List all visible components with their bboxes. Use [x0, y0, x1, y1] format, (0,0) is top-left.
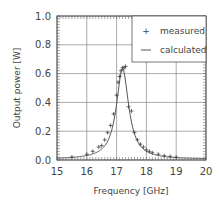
x-axis-label: Frequency [GHz]: [94, 186, 169, 196]
measured-point-plus-icon: [91, 149, 95, 153]
measured-point-plus-icon: [138, 142, 142, 146]
legend-box: [132, 16, 206, 62]
y-tick-label: 0.8: [35, 39, 51, 50]
x-tick-label: 15: [51, 166, 64, 177]
measured-point-plus-icon: [141, 145, 145, 149]
measured-point-plus-icon: [168, 154, 172, 158]
x-tick-label: 19: [170, 166, 183, 177]
legend: + measured calculated: [132, 16, 206, 62]
legend-label-measured: measured: [160, 26, 205, 36]
x-tick-label: 16: [80, 166, 93, 177]
measured-markers: [70, 64, 178, 159]
x-tick-label: 20: [200, 166, 213, 177]
measured-point-plus-icon: [127, 105, 131, 109]
legend-label-calculated: calculated: [160, 45, 206, 55]
y-tick-label: 0.0: [35, 155, 51, 166]
y-axis-ticks: 0.00.20.40.60.81.0: [35, 11, 51, 166]
legend-marker-plus-icon: +: [142, 26, 150, 36]
chart: 0.00.20.40.60.81.0 151617181920 + measur…: [0, 0, 221, 205]
measured-point-plus-icon: [103, 138, 107, 142]
measured-point-plus-icon: [70, 155, 74, 159]
x-axis-ticks: 151617181920: [51, 166, 213, 177]
calculated-curve: [57, 69, 206, 159]
measured-point-plus-icon: [174, 155, 178, 159]
y-tick-label: 1.0: [35, 11, 51, 22]
x-tick-label: 18: [140, 166, 153, 177]
y-tick-label: 0.2: [35, 126, 51, 137]
y-tick-label: 0.4: [35, 97, 51, 108]
y-tick-label: 0.6: [35, 68, 51, 79]
x-tick-label: 17: [110, 166, 123, 177]
y-axis-label: Output power [W]: [12, 48, 22, 129]
